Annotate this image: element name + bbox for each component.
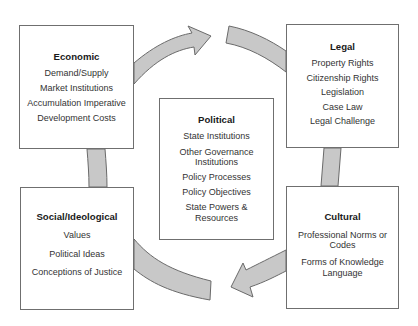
cultural-item: Professional Norms or Codes <box>291 230 395 251</box>
economic-item: Market Institutions <box>40 83 113 94</box>
political-title: Political <box>198 114 235 125</box>
economic-box: Economic Demand/Supply Market Institutio… <box>19 25 134 149</box>
arrow-legal-to-cultural <box>321 148 341 186</box>
political-items: State Institutions Other Governance Inst… <box>167 131 267 223</box>
social-items: Values Political Ideas Conceptions of Ju… <box>32 230 123 286</box>
cultural-title: Cultural <box>324 211 360 222</box>
legal-item: Legal Challenge <box>310 116 375 127</box>
economic-title: Economic <box>54 51 100 62</box>
political-item: State Powers & Resources <box>167 202 267 223</box>
economic-item: Demand/Supply <box>44 68 108 79</box>
legal-title: Legal <box>330 41 355 52</box>
arrow-tail-into-legal <box>226 26 286 72</box>
legal-items: Property Rights Citizenship Rights Legis… <box>306 58 378 131</box>
social-item: Political Ideas <box>49 249 105 260</box>
social-item: Conceptions of Justice <box>32 267 123 278</box>
legal-item: Property Rights <box>311 58 373 69</box>
cultural-items: Professional Norms or Codes Forms of Kno… <box>291 230 395 284</box>
social-title: Social/Ideological <box>36 211 117 222</box>
arrow-economic-to-legal <box>134 26 211 84</box>
social-ideological-box: Social/Ideological Values Political Idea… <box>20 187 134 310</box>
cultural-box: Cultural Professional Norms or Codes For… <box>286 186 399 309</box>
political-item: State Institutions <box>183 131 250 142</box>
arrow-tail-from-social <box>134 239 211 300</box>
economic-item: Accumulation Imperative <box>27 98 126 109</box>
social-item: Values <box>64 230 91 241</box>
legal-item: Case Law <box>322 102 362 113</box>
arrow-social-to-economic <box>87 149 107 187</box>
economic-item: Development Costs <box>37 113 116 124</box>
legal-item: Legislation <box>321 87 364 98</box>
political-item: Policy Objectives <box>182 187 251 198</box>
political-item: Policy Processes <box>182 172 251 183</box>
cultural-item: Forms of Knowledge Language <box>291 257 395 278</box>
economic-items: Demand/Supply Market Institutions Accumu… <box>27 68 126 124</box>
political-box: Political State Institutions Other Gover… <box>159 98 274 240</box>
political-item: Other Governance Institutions <box>167 147 267 168</box>
legal-item: Citizenship Rights <box>306 73 378 84</box>
legal-box: Legal Property Rights Citizenship Rights… <box>286 24 399 148</box>
arrow-cultural-to-social <box>231 250 286 297</box>
